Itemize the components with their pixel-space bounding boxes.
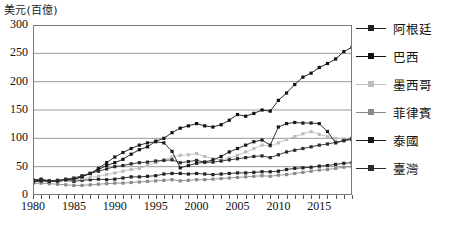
data-point (105, 173, 108, 176)
data-point (260, 170, 263, 173)
data-point (342, 166, 345, 169)
x-axis-minor-tick (197, 195, 198, 199)
data-point (121, 151, 124, 154)
legend-item-臺灣[interactable]: 臺灣 (356, 154, 468, 182)
series-臺灣 (33, 138, 352, 183)
x-axis-minor-tick (131, 195, 132, 199)
data-point (154, 174, 157, 177)
legend-item-菲律賓[interactable]: 菲律賓 (356, 98, 468, 126)
data-point (203, 155, 206, 158)
data-point (211, 125, 214, 128)
legend-item-墨西哥[interactable]: 墨西哥 (356, 70, 468, 98)
data-point (334, 57, 337, 60)
data-point (252, 147, 255, 150)
x-axis-tick-label: 2005 (215, 199, 259, 214)
data-point (220, 159, 223, 162)
data-point (293, 135, 296, 138)
data-point (293, 121, 296, 124)
data-point (277, 170, 280, 173)
y-axis-tick-label: 100 (0, 130, 28, 145)
data-point (195, 152, 198, 155)
data-point (146, 180, 149, 183)
data-point (130, 168, 133, 171)
x-axis-minor-tick (164, 195, 165, 199)
data-point (326, 168, 329, 171)
data-point (334, 141, 337, 144)
data-point (56, 179, 59, 182)
x-axis-minor-tick (246, 195, 247, 199)
data-point (113, 161, 116, 164)
data-point (97, 183, 100, 186)
data-point (293, 149, 296, 152)
data-point (260, 138, 263, 141)
x-axis-minor-tick (107, 195, 108, 199)
legend-label: 泰國 (393, 131, 419, 150)
data-point (318, 122, 321, 125)
data-point (310, 121, 313, 124)
data-point (97, 170, 100, 173)
data-point (244, 115, 247, 118)
data-point (138, 144, 141, 147)
data-point (170, 150, 173, 153)
data-point (285, 122, 288, 125)
legend-marker-icon (356, 162, 386, 174)
data-point (195, 162, 198, 165)
data-point (170, 158, 173, 161)
x-axis-minor-tick (188, 195, 189, 199)
data-point (105, 178, 108, 181)
data-point (244, 144, 247, 147)
data-point (138, 180, 141, 183)
data-point (252, 140, 255, 143)
legend-label: 阿根廷 (393, 19, 432, 38)
data-point (203, 178, 206, 181)
legend-label: 巴西 (393, 47, 419, 66)
legend-dot-icon (368, 53, 374, 59)
data-point (252, 175, 255, 178)
x-axis-minor-tick (262, 195, 263, 199)
x-axis-minor-tick (352, 195, 353, 199)
data-point (310, 166, 313, 169)
data-point (310, 170, 313, 173)
data-point (252, 155, 255, 158)
data-point (195, 172, 198, 175)
data-point (318, 133, 321, 136)
x-axis-minor-tick (229, 195, 230, 199)
data-point (301, 132, 304, 135)
data-point (220, 123, 223, 126)
legend-label: 墨西哥 (393, 75, 432, 94)
data-point (326, 142, 329, 145)
data-point (236, 157, 239, 160)
data-point (80, 174, 83, 177)
data-point (301, 147, 304, 150)
data-point (310, 145, 313, 148)
x-axis-tick-label: 1985 (52, 199, 96, 214)
data-point (310, 72, 313, 75)
data-point (293, 172, 296, 175)
data-point (236, 113, 239, 116)
legend-item-阿根廷[interactable]: 阿根廷 (356, 14, 468, 42)
x-axis-minor-tick (74, 195, 75, 199)
legend-item-巴西[interactable]: 巴西 (356, 42, 468, 70)
data-point (130, 147, 133, 150)
data-point (113, 165, 116, 168)
data-point (121, 158, 124, 161)
data-point (236, 154, 239, 157)
x-axis-minor-tick (287, 195, 288, 199)
legend-dot-icon (368, 81, 374, 87)
data-point (277, 99, 280, 102)
x-axis-minor-tick (295, 195, 296, 199)
legend-item-泰國[interactable]: 泰國 (356, 126, 468, 154)
data-point (301, 166, 304, 169)
data-point (179, 166, 182, 169)
data-point (326, 164, 329, 167)
data-point (146, 175, 149, 178)
data-point (301, 121, 304, 124)
data-point (121, 164, 124, 167)
data-point (162, 141, 165, 144)
data-point (260, 144, 263, 147)
data-point (80, 184, 83, 187)
series-巴西 (33, 46, 352, 184)
data-point (105, 161, 108, 164)
data-point (277, 125, 280, 128)
legend-marker-icon (356, 78, 386, 90)
